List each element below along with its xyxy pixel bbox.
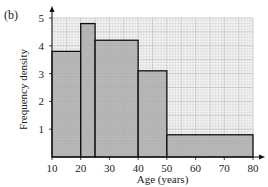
y-tick-label: 2 [39, 95, 45, 107]
x-tick-label: 60 [190, 162, 202, 174]
histogram-bar-grid [138, 71, 167, 157]
histogram-bar-grid [95, 40, 138, 157]
histogram-chart: 102030405060708012345 Age (years) Freque… [0, 0, 268, 187]
histogram-bar-grid [81, 24, 95, 157]
y-tick-label: 4 [39, 40, 45, 52]
x-tick-label: 30 [104, 162, 116, 174]
y-tick-label: 1 [39, 123, 45, 135]
y-axis-label: Frequency density [17, 49, 29, 130]
histogram-bar-grid [52, 51, 81, 157]
y-tick-label: 5 [39, 12, 45, 24]
x-axis-label: Age (years) [137, 173, 189, 186]
y-tick-label: 3 [39, 68, 45, 80]
x-tick-label: 20 [75, 162, 87, 174]
x-tick-label: 70 [219, 162, 231, 174]
histogram-bar-grid [167, 135, 253, 157]
y-axis-arrow-icon [50, 6, 55, 12]
x-tick-label: 10 [47, 162, 59, 174]
x-tick-label: 80 [248, 162, 260, 174]
x-axis-arrow-icon [259, 155, 265, 160]
